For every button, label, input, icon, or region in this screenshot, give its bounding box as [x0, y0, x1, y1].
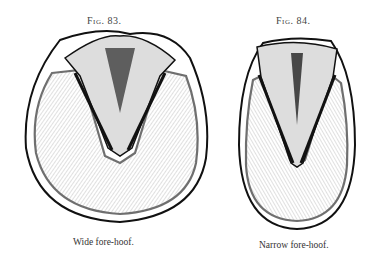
figure-83-caption: Wide fore-hoof. — [73, 237, 134, 247]
figure-84-caption: Narrow fore-hoof. — [259, 240, 329, 250]
narrow-hoof-illustration — [235, 35, 360, 235]
figure-84-label: Fig. 84. — [276, 15, 310, 26]
wide-hoof-illustration — [20, 28, 220, 228]
figure-83-label: Fig. 83. — [87, 15, 121, 26]
